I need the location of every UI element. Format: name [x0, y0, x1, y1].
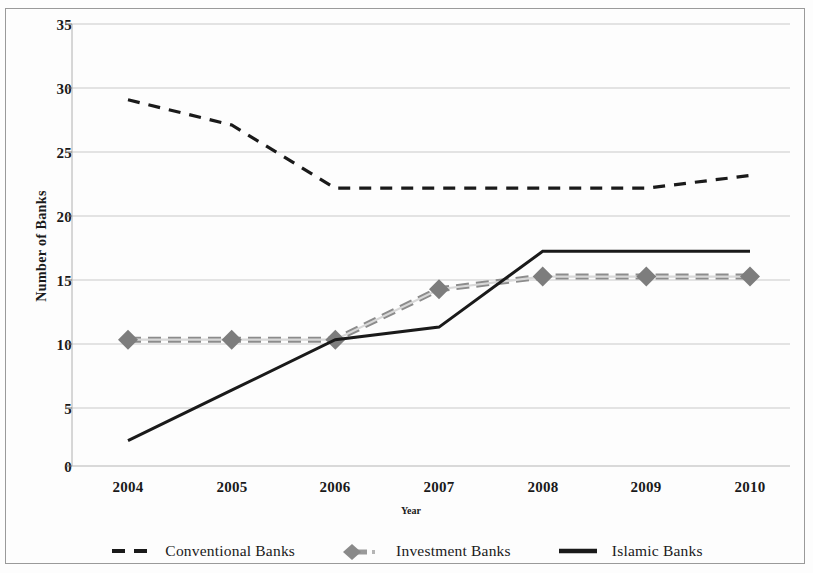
chart-legend: Conventional Banks Investment Banks Isla…	[0, 536, 813, 566]
legend-item-investment-banks[interactable]: Investment Banks	[341, 542, 511, 560]
chart-figure: Number of Banks 35 30 25 20 15 10 5 0 20…	[0, 0, 813, 573]
gridlines	[72, 24, 790, 466]
legend-label-investment-banks: Investment Banks	[396, 542, 511, 560]
data-point-marker	[222, 330, 242, 350]
legend-label-conventional-banks: Conventional Banks	[165, 542, 295, 560]
data-point-marker	[118, 330, 138, 350]
plot-area	[0, 0, 813, 573]
series-line-conventional-banks	[128, 100, 750, 188]
data-point-marker	[740, 267, 760, 287]
data-point-marker	[636, 267, 656, 287]
diamond-marker-swatch-icon	[341, 543, 387, 559]
legend-label-islamic-banks: Islamic Banks	[612, 542, 703, 560]
legend-item-conventional-banks[interactable]: Conventional Banks	[110, 542, 295, 560]
data-point-marker	[429, 279, 449, 299]
solid-line-swatch-icon	[557, 543, 603, 559]
data-point-marker	[533, 267, 553, 287]
y-axis-line	[66, 24, 72, 466]
dashed-line-swatch-icon	[110, 543, 156, 559]
legend-item-islamic-banks[interactable]: Islamic Banks	[557, 542, 703, 560]
